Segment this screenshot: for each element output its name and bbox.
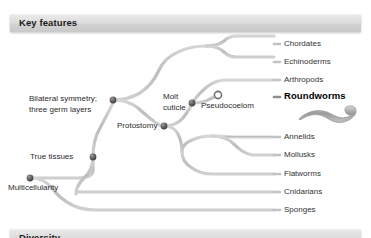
section-header-diversity: Diversity: [10, 229, 361, 238]
section-title-key-features: Key features: [19, 17, 77, 28]
feature-label-bilateral-line1: Bilateral symmetry;: [29, 94, 97, 105]
feature-label-pseudocoelom: Pseudocoelom: [201, 101, 254, 111]
feature-label-molt-line2: cuticle: [163, 103, 186, 114]
taxon-label-arthropods: Arthropods: [284, 75, 323, 85]
feature-label-multicellularity: Multicellularity: [8, 183, 58, 193]
section-header-key-features: Key features: [10, 14, 361, 32]
branch-lophotrochozoa: [182, 136, 212, 152]
node-multicellularity[interactable]: [27, 175, 34, 182]
feature-label-bilateral-line2: three germ layers: [29, 105, 97, 116]
branch-mollusks: [212, 136, 274, 155]
taxon-label-mollusks: Mollusks: [284, 150, 315, 160]
branch-root-to-true-tissues: [30, 160, 93, 178]
feature-label-protostomy: Protostomy: [117, 121, 157, 131]
node-molt-cuticle[interactable]: [189, 100, 196, 107]
taxon-label-cnidarians: Cnidarians: [284, 187, 322, 197]
node-bilateral-symmetry[interactable]: [110, 97, 117, 104]
branch-echinoderms: [206, 46, 274, 57]
feature-label-molt-line1: Molt: [163, 92, 186, 103]
figure-root: Key features Diversity Bilateral symmetr…: [0, 0, 371, 238]
phylogenetic-tree: [0, 0, 371, 238]
section-title-diversity: Diversity: [19, 232, 60, 238]
feature-label-molt-cuticle: Molt cuticle: [163, 92, 186, 113]
taxon-label-chordates: Chordates: [284, 39, 321, 49]
taxon-label-echinoderms: Echinoderms: [284, 57, 331, 67]
node-pseudocoelom[interactable]: [214, 91, 221, 98]
taxon-label-roundworms: Roundworms: [284, 91, 346, 101]
node-protostomy[interactable]: [161, 123, 168, 130]
taxon-label-sponges: Sponges: [284, 205, 316, 215]
roundworm-illustration: [299, 106, 356, 123]
taxon-label-annelids: Annelids: [284, 132, 315, 142]
node-true-tissues[interactable]: [90, 154, 97, 161]
taxon-label-flatworms: Flatworms: [284, 169, 321, 179]
branch-deuterostomes: [113, 46, 206, 100]
branch-sponges: [30, 178, 274, 210]
feature-label-bilateral-symmetry: Bilateral symmetry; three germ layers: [29, 94, 97, 115]
label-connectors: [274, 44, 280, 210]
branch-protostomy-down: [164, 126, 182, 152]
feature-label-true-tissues: True tissues: [30, 152, 73, 162]
branch-arthropods: [192, 80, 274, 103]
